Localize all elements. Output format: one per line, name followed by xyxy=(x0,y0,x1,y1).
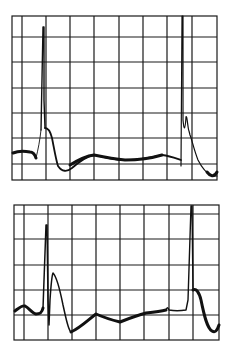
bottom-trace xyxy=(15,206,219,332)
top-trace xyxy=(13,16,217,176)
figure xyxy=(0,0,232,351)
